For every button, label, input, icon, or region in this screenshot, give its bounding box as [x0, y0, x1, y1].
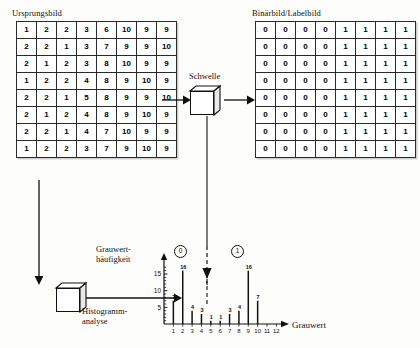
binary-matrix-row: 00001111 — [256, 73, 416, 90]
y-axis-label: Grauwert- häufigkeit — [96, 244, 131, 264]
x-tick-label: 5 — [209, 328, 213, 334]
binary-matrix-cell: 0 — [296, 39, 316, 56]
binary-matrix-cell: 1 — [356, 124, 376, 141]
binary-matrix-cell: 0 — [316, 73, 336, 90]
source-matrix-cell: 1 — [17, 22, 37, 39]
binary-matrix-cell: 1 — [336, 107, 356, 124]
binary-matrix-row: 00001111 — [256, 39, 416, 56]
source-matrix-cell: 3 — [77, 39, 97, 56]
binary-matrix-cell: 0 — [296, 107, 316, 124]
source-matrix-cell: 9 — [137, 22, 157, 39]
source-matrix-cell: 1 — [17, 141, 37, 158]
bar-value-label: 3 — [229, 307, 232, 313]
y-tick-label: 5 — [157, 304, 161, 311]
source-matrix-cell: 10 — [117, 124, 137, 141]
bar-value-label: 3 — [200, 307, 203, 313]
binary-matrix-cell: 0 — [316, 90, 336, 107]
bar-value-label: 16 — [180, 264, 186, 270]
arrow-source-to-histogram-analysis — [33, 180, 79, 292]
binary-matrix-cell: 1 — [396, 39, 416, 56]
bar-value-label: 4 — [238, 304, 242, 310]
binary-matrix-cell: 1 — [356, 90, 376, 107]
source-matrix-cell: 10 — [137, 73, 157, 90]
source-matrix-row: 212381099 — [17, 56, 177, 73]
binary-matrix-cell: 0 — [256, 73, 276, 90]
source-matrix-cell: 7 — [97, 141, 117, 158]
source-matrix-cell: 7 — [97, 39, 117, 56]
binary-matrix-row: 00001111 — [256, 22, 416, 39]
source-matrix-cell: 1 — [57, 124, 77, 141]
source-matrix-row: 221471099 — [17, 124, 177, 141]
x-tick-label: 10 — [254, 328, 261, 334]
source-matrix-cell: 8 — [97, 107, 117, 124]
binary-matrix-cell: 1 — [356, 22, 376, 39]
source-matrix-cell: 2 — [37, 22, 57, 39]
binary-matrix-cell: 0 — [256, 56, 276, 73]
x-tick-label: 12 — [273, 328, 280, 334]
bar-value-label: 7 — [172, 294, 175, 300]
binary-matrix-cell: 1 — [336, 56, 356, 73]
source-matrix-row: 122489109 — [17, 73, 177, 90]
diagram-canvas: Ursprungsbild 12236109922137991021238109… — [0, 0, 420, 348]
source-image-matrix: 1223610992213799102123810991224891092215… — [16, 21, 177, 158]
source-matrix-cell: 6 — [97, 22, 117, 39]
source-matrix-cell: 8 — [97, 56, 117, 73]
source-matrix-cell: 5 — [77, 90, 97, 107]
source-matrix-cell: 9 — [157, 124, 177, 141]
binary-matrix-cell: 1 — [396, 22, 416, 39]
binary-matrix-cell: 1 — [376, 124, 396, 141]
source-matrix-cell: 2 — [37, 90, 57, 107]
source-matrix-cell: 1 — [37, 56, 57, 73]
binary-matrix-cell: 1 — [336, 141, 356, 158]
y-tick-label: 10 — [154, 287, 162, 294]
source-matrix-cell: 3 — [77, 22, 97, 39]
binary-matrix-cell: 1 — [376, 56, 396, 73]
source-matrix-cell: 10 — [117, 56, 137, 73]
x-tick-label: 11 — [264, 328, 271, 334]
cube-front-face — [56, 288, 80, 312]
binary-matrix-cell: 0 — [316, 107, 336, 124]
source-matrix-cell: 2 — [17, 90, 37, 107]
source-matrix-cell: 9 — [117, 39, 137, 56]
region-marker-background: 0 — [174, 245, 187, 258]
source-matrix-cell: 2 — [57, 56, 77, 73]
binary-matrix-cell: 0 — [296, 22, 316, 39]
x-tick-label: 8 — [237, 328, 241, 334]
source-image-caption: Ursprungsbild — [12, 8, 62, 18]
source-matrix-cell: 9 — [157, 22, 177, 39]
source-matrix-cell: 7 — [97, 124, 117, 141]
binary-matrix-cell: 0 — [296, 141, 316, 158]
source-matrix-cell: 9 — [137, 56, 157, 73]
binary-matrix-cell: 1 — [356, 141, 376, 158]
histogram-analysis-label-line2: analyse — [82, 317, 127, 327]
source-matrix-cell: 3 — [77, 56, 97, 73]
source-matrix-row: 221379910 — [17, 39, 177, 56]
source-matrix-cell: 2 — [37, 124, 57, 141]
binary-matrix-cell: 0 — [316, 56, 336, 73]
source-matrix-cell: 8 — [97, 90, 117, 107]
bar-value-label: 1 — [210, 314, 213, 320]
x-tick-label: 9 — [247, 328, 251, 334]
binary-matrix-row: 00001111 — [256, 107, 416, 124]
x-tick-label: 6 — [219, 328, 223, 334]
source-matrix-cell: 2 — [17, 124, 37, 141]
region-marker-object: 1 — [231, 245, 244, 258]
binary-matrix-cell: 1 — [396, 73, 416, 90]
y-tick-label: 15 — [154, 270, 162, 277]
binary-matrix-cell: 1 — [356, 56, 376, 73]
binary-matrix-cell: 1 — [396, 124, 416, 141]
source-matrix-cell: 9 — [117, 73, 137, 90]
binary-matrix-cell: 0 — [296, 90, 316, 107]
source-matrix-cell: 2 — [57, 141, 77, 158]
binary-matrix-cell: 1 — [396, 141, 416, 158]
binary-matrix-cell: 0 — [316, 141, 336, 158]
y-axis-label-line1: Grauwert- — [96, 244, 131, 254]
source-matrix-cell: 9 — [137, 90, 157, 107]
binary-matrix-cell: 0 — [256, 107, 276, 124]
binary-matrix-cell: 1 — [376, 141, 396, 158]
binary-matrix-cell: 1 — [336, 22, 356, 39]
bar-value-label: 4 — [191, 304, 195, 310]
histogram-svg: 51015172163443516173849161071112Grauwert — [148, 258, 308, 338]
source-matrix-row: 122379109 — [17, 141, 177, 158]
binary-matrix-cell: 0 — [276, 22, 296, 39]
